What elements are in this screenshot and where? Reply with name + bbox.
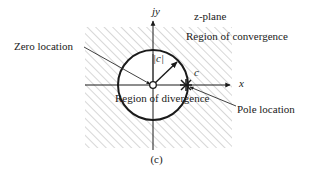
pole-point-label: c — [194, 67, 199, 79]
hatched-shading-region — [85, 27, 232, 148]
radius-magnitude-label: |c| — [153, 53, 164, 65]
zero-marker — [150, 82, 157, 89]
figure-graphics — [0, 0, 313, 176]
region-of-convergence-label: Region of convergence — [186, 31, 264, 43]
pole-marker — [180, 79, 192, 91]
z-plane-label: z-plane — [194, 11, 226, 23]
z-plane-roc-figure: Zero location Pole location z-plane Regi… — [0, 0, 313, 176]
zero-location-label: Zero location — [14, 41, 73, 53]
x-axis-label: x — [239, 78, 244, 90]
y-axis-label: jy — [152, 6, 160, 18]
region-of-divergence-label: Region of divergence — [115, 93, 193, 105]
figure-caption: (c) — [0, 154, 313, 166]
pole-location-label: Pole location — [237, 104, 295, 116]
